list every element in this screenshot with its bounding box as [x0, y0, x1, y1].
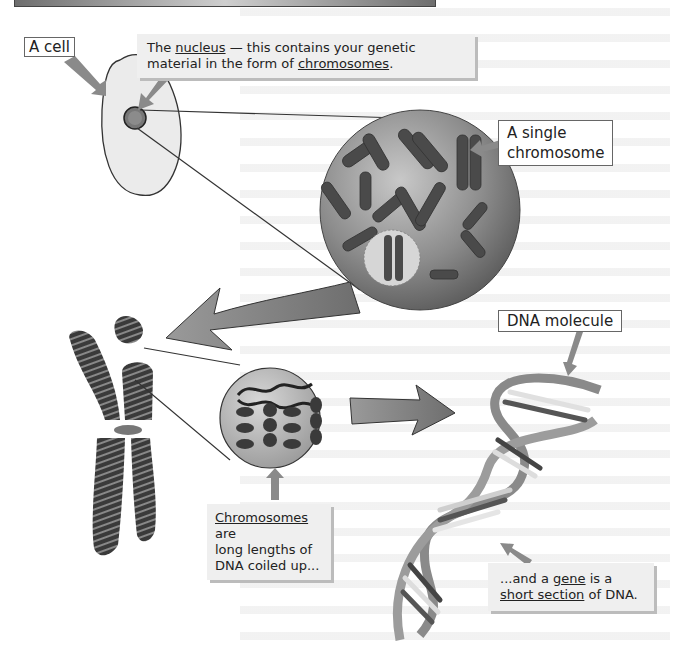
term-short-section: short section — [500, 587, 584, 602]
label-line-1: A single — [507, 123, 604, 143]
callout-line-2: long lengths of — [215, 542, 323, 558]
text: material in the form of — [147, 56, 298, 71]
callout-gene: ...and a gene is a short section of DNA. — [488, 563, 654, 611]
text: The — [147, 40, 175, 55]
label-a-cell: A cell — [24, 37, 75, 57]
term-chromosomes: Chromosomes — [215, 510, 308, 525]
term-gene: gene — [553, 571, 586, 586]
callout-nucleus: The nucleus — this contains your genetic… — [137, 34, 475, 78]
condensed-chromosome — [69, 316, 156, 555]
label-dna-molecule: DNA molecule — [498, 310, 622, 332]
label-single-chromosome: A single chromosome — [498, 120, 613, 166]
label-text: DNA molecule — [507, 312, 613, 330]
text: — this contains your genetic — [226, 40, 416, 55]
callout-line-2: material in the form of chromosomes. — [147, 56, 465, 72]
callout-line-2: short section of DNA. — [500, 587, 642, 603]
label-text: A cell — [29, 38, 70, 56]
text: . — [389, 56, 393, 71]
text: ...and a — [500, 571, 553, 586]
callout-line-1: ...and a gene is a — [500, 571, 642, 587]
text: is a — [586, 571, 613, 586]
callout-line-1: The nucleus — this contains your genetic — [147, 40, 465, 56]
term-nucleus: nucleus — [175, 40, 225, 55]
callout-line-3: DNA coiled up... — [215, 558, 323, 574]
callout-chromosomes: Chromosomes are long lengths of DNA coil… — [207, 504, 331, 580]
text: are — [215, 526, 236, 541]
text: of DNA. — [584, 587, 637, 602]
callout-line-1: Chromosomes are — [215, 510, 323, 542]
nucleus-sphere — [319, 110, 520, 310]
label-line-2: chromosome — [507, 143, 604, 163]
coiled-dna-zoom — [220, 368, 322, 500]
term-chromosomes: chromosomes — [298, 56, 389, 71]
